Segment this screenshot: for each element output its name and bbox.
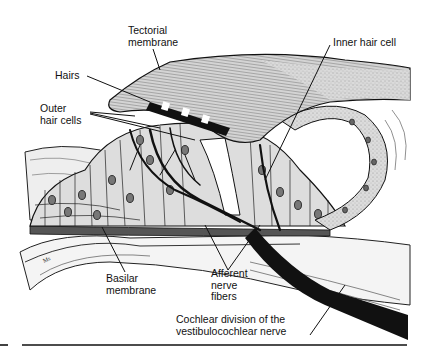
label-afferent-nerve-fibers: Afferent nerve fibers — [211, 268, 248, 303]
label-tectorial-membrane: Tectorial membrane — [128, 25, 178, 48]
label-cochlear-division: Cochlear division of the vestibulocochle… — [176, 314, 286, 337]
basilar-membrane-shape — [30, 226, 330, 236]
label-inner-hair-cell: Inner hair cell — [333, 37, 396, 49]
diagram-illustration: Ms — [0, 0, 422, 362]
label-outer-hair-cells: Outer hair cells — [40, 103, 81, 126]
organ-of-corti-diagram: Ms Tectorial membrane Hairs Outer hair c… — [0, 0, 422, 362]
label-hairs: Hairs — [55, 70, 80, 82]
label-basilar-membrane: Basilar membrane — [106, 273, 156, 296]
